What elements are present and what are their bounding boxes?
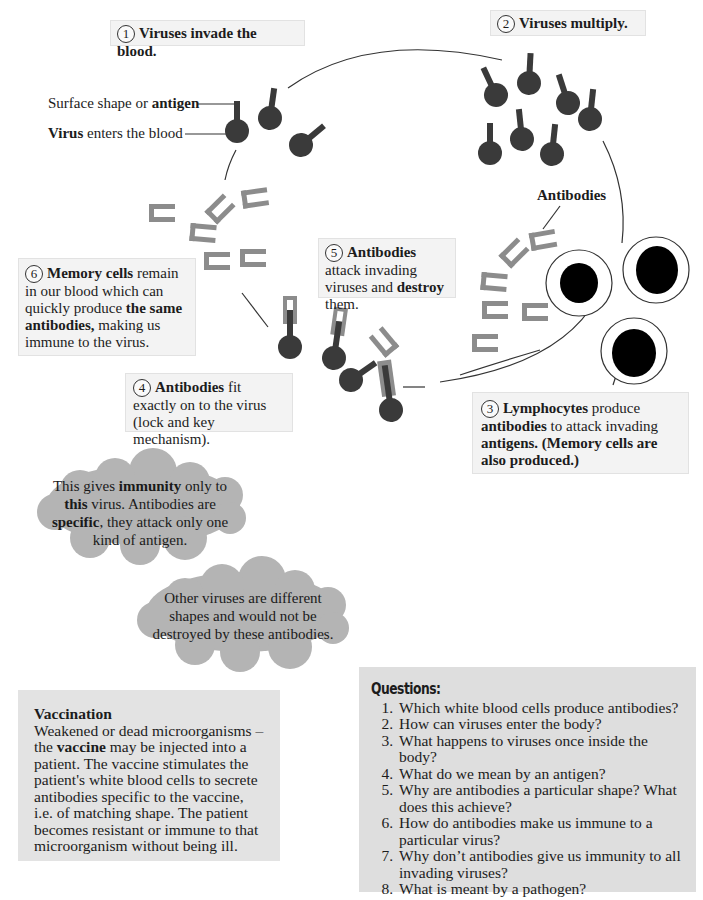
step-2-text: Viruses multiply. xyxy=(519,15,628,31)
cloud-1-text: only to xyxy=(181,478,227,494)
step-1-number: 1 xyxy=(117,25,135,43)
virus-group-step2 xyxy=(472,52,605,167)
virus-label: Virus enters the blood xyxy=(48,125,183,142)
virus-label-bold: Virus xyxy=(48,125,83,141)
cloud-1-bold-immunity: immunity xyxy=(119,478,182,494)
question-item: How do antibodies make us immune to a pa… xyxy=(397,815,684,848)
virus-antibody-complexes xyxy=(278,296,405,424)
antigen-label: Surface shape or antigen xyxy=(48,95,199,112)
question-item: Why don’t antibodies give us immunity to… xyxy=(397,848,684,881)
step-5-text: them. xyxy=(325,296,359,312)
antigen-label-bold: antigen xyxy=(152,95,200,111)
step-6-bold-memory-cells: Memory cells xyxy=(47,265,133,281)
step-5-bold-destroy: destroy xyxy=(397,279,444,295)
cloud-1-text: , they attack only one kind of antigen. xyxy=(93,514,228,548)
lymphocyte xyxy=(601,318,667,384)
cloud-1-bold-specific: specific xyxy=(52,514,99,530)
cloud-other-viruses: Other viruses are different shapes and w… xyxy=(148,589,338,643)
step-4-bold-antibodies: Antibodies xyxy=(155,379,224,395)
step-4-box: 4Antibodies fit exactly on to the virus … xyxy=(125,373,293,432)
cloud-1-bold-this: this xyxy=(64,496,87,512)
cloud-immunity: This gives immunity only to this virus. … xyxy=(50,477,230,549)
step-3-text: produce xyxy=(588,400,640,416)
step-4-number: 4 xyxy=(133,379,151,397)
questions-title: Questions: xyxy=(371,681,441,698)
step-5-number: 5 xyxy=(325,244,343,262)
cloud-1-text: virus. Antibodies are xyxy=(88,496,216,512)
cloud-2-text: Other viruses are different shapes and w… xyxy=(153,590,334,642)
vaccination-panel: Vaccination Weakened or dead microorgani… xyxy=(18,690,280,861)
questions-list: Which white blood cells produce antibodi… xyxy=(371,700,684,898)
antibodies-label-text: Antibodies xyxy=(537,187,606,203)
lymphocyte xyxy=(546,250,612,316)
antigen-label-prefix: Surface shape or xyxy=(48,95,152,111)
antibodies-label: Antibodies xyxy=(537,187,606,204)
question-item: What do we mean by an antigen? xyxy=(397,766,684,783)
step-5-box: 5Antibodies attack invading viruses and … xyxy=(318,238,456,298)
vaccination-bold-vaccine: vaccine xyxy=(57,738,106,755)
question-item: Which white blood cells produce antibodi… xyxy=(397,700,684,717)
antibody-group-right xyxy=(472,229,557,352)
cloud-1-text: This gives xyxy=(53,478,119,494)
step-3-text: to attack invading xyxy=(547,418,658,434)
step-2-box: 2Viruses multiply. xyxy=(490,10,646,36)
question-item: What is meant by a pathogen? xyxy=(397,881,684,898)
step-3-number: 3 xyxy=(481,400,499,418)
step-3-bold-antibodies: antibodies xyxy=(481,418,547,434)
step-2-number: 2 xyxy=(497,15,515,33)
question-item: How can viruses enter the body? xyxy=(397,716,684,733)
step-1-box: 1Viruses invade the blood. xyxy=(110,20,305,46)
step-6-box: 6Memory cells remain in our blood which … xyxy=(18,258,196,356)
virus-group-step1 xyxy=(225,87,332,162)
virus-label-suffix: enters the blood xyxy=(83,125,183,141)
step-3-box: 3Lymphocytes produce antibodies to attac… xyxy=(472,392,689,474)
vaccination-title: Vaccination xyxy=(34,706,266,723)
question-item: What happens to viruses once inside the … xyxy=(397,733,684,766)
step-3-bold-lymphocytes: Lymphocytes xyxy=(503,400,588,416)
vaccination-body: Weakened or dead microorganisms – the va… xyxy=(34,723,266,855)
vaccination-text: may be injected into a patient. The vacc… xyxy=(34,738,258,854)
questions-panel: Questions: Which white blood cells produ… xyxy=(359,667,696,892)
question-item: Why are antibodies a particular shape? W… xyxy=(397,782,684,815)
step-3-bold-antigens: antigens. (Memory cells are also produce… xyxy=(481,435,657,468)
step-6-number: 6 xyxy=(25,265,43,283)
step-5-bold-antibodies: Antibodies xyxy=(347,244,416,260)
lymphocyte xyxy=(623,237,689,303)
lymphocytes xyxy=(546,237,689,384)
